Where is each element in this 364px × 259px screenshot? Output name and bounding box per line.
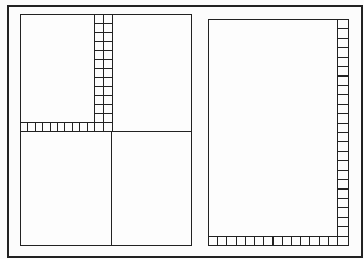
right-vertical-strip-cell — [337, 236, 349, 246]
left-vertical-strip-cell — [103, 122, 113, 132]
right-bottom-strip-cell — [328, 236, 338, 246]
left-horizontal-strip-cell — [87, 122, 95, 132]
right-page-panel — [208, 19, 349, 246]
